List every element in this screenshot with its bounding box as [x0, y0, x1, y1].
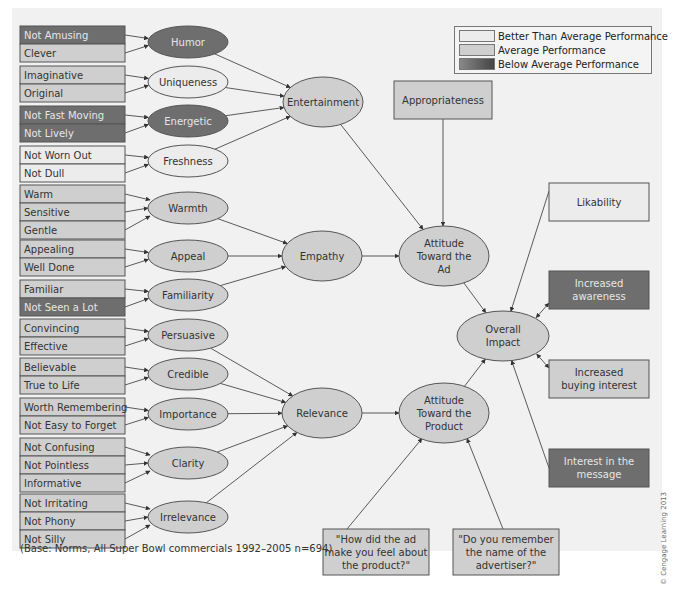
attribute-not-lively-label: Not Lively — [24, 128, 74, 139]
node-irrelevance-label: Irrelevance — [160, 512, 216, 523]
attribute-group-energetic: Not Fast MovingNot Lively — [20, 106, 125, 142]
attribute-imaginative-label: Imaginative — [24, 70, 83, 81]
node-appeal-label: Appeal — [171, 251, 206, 262]
box-question-name-label: advertiser?" — [476, 560, 537, 571]
attribute-group-persuasive: ConvincingEffective — [20, 319, 125, 355]
node-warmth-label: Warmth — [168, 203, 207, 214]
arrow-not-easy-to-forget-to-importance — [125, 418, 148, 426]
box-interest-message-shape — [549, 449, 649, 487]
node-relevance: Relevance — [282, 388, 362, 438]
attribute-group-freshness: Not Worn OutNot Dull — [20, 146, 125, 182]
node-overall-impact-label: Impact — [486, 337, 521, 348]
arrow-true-to-life-to-credible — [125, 378, 148, 386]
arrow-not-phony-to-irrelevance — [125, 517, 148, 521]
node-energetic: Energetic — [148, 105, 228, 137]
legend-item-better: Better Than Average Performance — [459, 30, 668, 42]
footnote: (Base: Norms, All Super Bowl commercials… — [20, 543, 332, 554]
arrow-familiar-to-familiarity — [125, 289, 148, 292]
arrow-not-silly-to-irrelevance — [125, 525, 150, 539]
node-uniqueness-label: Uniqueness — [159, 77, 217, 88]
legend-label-average: Average Performance — [498, 45, 606, 56]
attribute-not-confusing-label: Not Confusing — [24, 442, 95, 453]
arrow-increased-buying-interest-to-overall-impact — [537, 354, 549, 368]
attribute-group-humor: Not AmusingClever — [20, 26, 125, 62]
node-importance: Importance — [148, 398, 228, 430]
attribute-well-done-label: Well Done — [24, 262, 75, 273]
node-warmth: Warmth — [148, 192, 228, 224]
attribute-not-irritating-label: Not Irritating — [24, 498, 88, 509]
node-familiarity: Familiarity — [148, 279, 228, 311]
arrow-imaginative-to-uniqueness — [125, 75, 148, 79]
attribute-group-appeal: AppealingWell Done — [20, 240, 125, 276]
attribute-group-irrelevance: Not IrritatingNot PhonyNot Silly — [20, 494, 125, 548]
arrow-informative-to-clarity — [125, 471, 150, 483]
attribute-group-credible: BelievableTrue to Life — [20, 358, 125, 394]
node-empathy-label: Empathy — [300, 251, 345, 262]
node-familiarity-label: Familiarity — [162, 290, 214, 301]
attribute-informative-label: Informative — [24, 478, 82, 489]
attribute-gentle-label: Gentle — [24, 225, 57, 236]
node-freshness-label: Freshness — [163, 156, 213, 167]
box-increased-awareness-shape — [549, 271, 649, 309]
legend-swatch-average — [459, 44, 495, 56]
attribute-group-clarity: Not ConfusingNot PointlessInformative — [20, 438, 125, 492]
attribute-warm-label: Warm — [24, 189, 53, 200]
attribute-group-warmth: WarmSensitiveGentle — [20, 185, 125, 239]
arrow-warm-to-warmth — [125, 194, 150, 200]
arrow-well-done-to-appeal — [125, 260, 148, 268]
attribute-groups-layer: Not AmusingCleverImaginativeOriginalNot … — [20, 26, 127, 548]
arrow-question-name-to-attitude-product — [467, 439, 503, 530]
box-question-feel-label: "How did the ad — [336, 534, 416, 545]
attribute-believable-label: Believable — [24, 362, 76, 373]
attribute-appealing-label: Appealing — [24, 244, 74, 255]
arrow-not-confusing-to-clarity — [125, 447, 150, 455]
arrow-gentle-to-warmth — [125, 216, 150, 230]
arrow-not-irritating-to-irrelevance — [125, 503, 150, 509]
attribute-familiar-label: Familiar — [24, 284, 64, 295]
attribute-not-seen-a-lot-label: Not Seen a Lot — [24, 302, 98, 313]
arrow-original-to-uniqueness — [125, 86, 148, 94]
node-credible: Credible — [148, 358, 228, 390]
arrow-familiarity-to-empathy — [220, 267, 285, 286]
box-likability: Likability — [549, 183, 649, 221]
legend-label-better: Better Than Average Performance — [498, 31, 668, 42]
node-overall-impact: OverallImpact — [457, 311, 549, 361]
attribute-worth-remembering-label: Worth Remembering — [24, 402, 127, 413]
box-increased-buying-interest-label: buying interest — [561, 380, 637, 391]
attribute-group-importance: Worth RememberingNot Easy to Forget — [20, 398, 127, 434]
legend-swatch-below — [459, 58, 495, 70]
arrow-interest-message-to-overall-impact — [512, 361, 549, 468]
arrow-not-fast-moving-to-energetic — [125, 115, 148, 118]
node-credible-label: Credible — [167, 369, 208, 380]
attribute-group-familiarity: FamiliarNot Seen a Lot — [20, 280, 125, 316]
attribute-not-easy-to-forget-label: Not Easy to Forget — [24, 420, 117, 431]
node-entertainment: Entertainment — [283, 77, 363, 127]
attribute-clever-label: Clever — [24, 48, 57, 59]
node-attitude-product: AttitudeToward theProduct — [399, 383, 489, 443]
attribute-not-dull-label: Not Dull — [24, 168, 64, 179]
attribute-group-uniqueness: ImaginativeOriginal — [20, 66, 125, 102]
node-uniqueness: Uniqueness — [148, 66, 228, 98]
node-attitude-ad: AttitudeToward theAd — [399, 226, 489, 286]
arrow-uniqueness-to-entertainment — [226, 88, 285, 97]
arrow-not-amusing-to-humor — [125, 35, 148, 39]
box-interest-message-label: Interest in the — [564, 456, 634, 467]
attribute-effective-label: Effective — [24, 341, 68, 352]
nodes-layer: HumorUniquenessEnergeticFreshnessWarmthA… — [148, 26, 649, 575]
box-increased-awareness-label: Increased — [575, 278, 624, 289]
box-question-feel: "How did the admake you feel aboutthe pr… — [323, 529, 429, 575]
box-interest-message: Interest in themessage — [549, 449, 649, 487]
box-question-name: "Do you rememberthe name of theadvertise… — [453, 529, 559, 575]
legend-item-average: Average Performance — [459, 44, 606, 56]
node-attitude-ad-label: Toward the — [416, 251, 472, 262]
box-increased-buying-interest: Increasedbuying interest — [549, 360, 649, 398]
legend-label-below: Below Average Performance — [498, 59, 639, 70]
node-overall-impact-label: Overall — [485, 324, 521, 335]
ad-impact-diagram: Not AmusingCleverImaginativeOriginalNot … — [0, 0, 678, 593]
node-attitude-ad-label: Attitude — [424, 238, 464, 249]
node-clarity-label: Clarity — [172, 458, 205, 469]
attribute-not-worn-out-label: Not Worn Out — [24, 150, 92, 161]
arrow-believable-to-credible — [125, 367, 148, 371]
node-importance-label: Importance — [159, 409, 216, 420]
box-question-feel-label: make you feel about — [325, 547, 428, 558]
